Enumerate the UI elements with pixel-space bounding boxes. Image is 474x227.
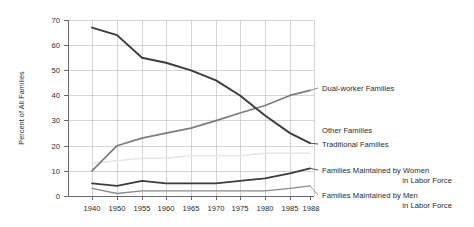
series-line-dual-worker: [92, 90, 310, 170]
series-label-women-line1: Families Maintained by Women: [322, 166, 429, 175]
x-tick-1988: 1988: [303, 204, 320, 213]
line-chart: 70 60 50 40 30 20 10 0 1940 1950 1955 19…: [0, 0, 474, 227]
leader-line-traditional: [310, 143, 318, 144]
series-group: [92, 28, 310, 194]
x-tick-1980: 1980: [257, 204, 274, 213]
chart-canvas: 70 60 50 40 30 20 10 0 1940 1950 1955 19…: [0, 0, 474, 227]
series-line-men-labor-force: [92, 186, 310, 194]
y-tick-marks: [64, 20, 68, 196]
x-tick-1965: 1965: [183, 204, 200, 213]
y-tick-30: 30: [52, 116, 60, 125]
y-axis-title: Percent of All Families: [17, 71, 26, 145]
y-tick-labels: 70 60 50 40 30 20 10 0: [52, 16, 60, 201]
y-tick-10: 10: [52, 167, 60, 176]
horizontal-gridlines: [68, 20, 290, 171]
y-tick-60: 60: [52, 41, 60, 50]
series-labels: Dual-worker Families Other Families Trad…: [322, 84, 452, 210]
x-tick-labels: 1940 1950 1955 1960 1965 1970 1975 1980 …: [84, 204, 320, 213]
y-tick-40: 40: [52, 91, 60, 100]
series-label-men-line2: in Labor Force: [402, 201, 452, 210]
y-tick-70: 70: [52, 16, 60, 25]
y-tick-50: 50: [52, 66, 60, 75]
series-label-women-line2: in Labor Force: [402, 176, 452, 185]
series-label-dual-worker: Dual-worker Families: [322, 84, 394, 93]
vertical-gridlines: [92, 20, 290, 196]
x-tick-1985: 1985: [282, 204, 299, 213]
y-tick-0: 0: [56, 192, 60, 201]
series-label-other-families: Other Families: [322, 126, 372, 135]
series-label-men-line1: Families Maintained by Men: [322, 191, 418, 200]
x-tick-1950: 1950: [109, 204, 126, 213]
x-tick-marks: [92, 196, 310, 200]
y-tick-20: 20: [52, 142, 60, 151]
x-tick-1955: 1955: [134, 204, 151, 213]
x-tick-1975: 1975: [232, 204, 249, 213]
series-line-other-families: [92, 153, 310, 163]
x-tick-1960: 1960: [158, 204, 175, 213]
x-tick-1940: 1940: [84, 204, 101, 213]
series-label-traditional-families: Traditional Families: [322, 140, 389, 149]
x-tick-1970: 1970: [208, 204, 225, 213]
